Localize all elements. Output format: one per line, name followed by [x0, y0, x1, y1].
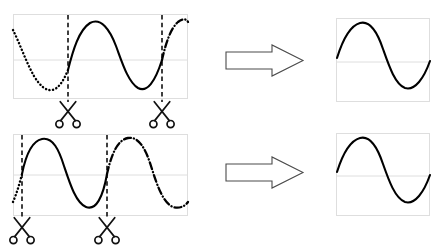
scissors-icon[interactable]: [56, 102, 80, 128]
scissors-icon[interactable]: [150, 102, 174, 128]
figure-canvas: [0, 0, 438, 247]
scissors-icon[interactable]: [10, 218, 34, 244]
arrow-right-icon: [226, 45, 303, 76]
row2-source-panel: [10, 135, 188, 244]
row1-source-panel: [13, 15, 188, 128]
arrow-right-icon: [226, 157, 303, 188]
scissors-icon[interactable]: [95, 218, 119, 244]
